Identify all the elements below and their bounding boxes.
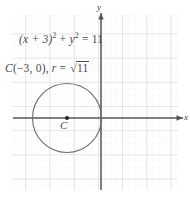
- center-point-marker: [65, 116, 69, 120]
- circle-graph-figure: (x + 3)2 + y2 = 11 C(−3, 0), r = √11 y x…: [0, 0, 190, 198]
- graph-canvas: [0, 0, 190, 198]
- grid-major: [13, 15, 178, 190]
